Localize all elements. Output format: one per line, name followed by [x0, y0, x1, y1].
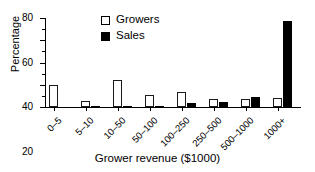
x-axis-tick [54, 107, 55, 111]
bar-growers [49, 85, 58, 107]
bar-growers [177, 92, 186, 107]
bar-sales [123, 106, 132, 107]
y-axis-line [45, 18, 46, 107]
x-axis-tick [150, 107, 151, 111]
x-axis-tick [86, 107, 87, 111]
legend-item: Growers [101, 12, 159, 28]
x-axis-title: Grower revenue ($1000) [0, 152, 315, 164]
legend-item-label: Growers [116, 14, 159, 26]
y-axis-minor-tick [42, 51, 45, 52]
y-axis-tick: 60 [40, 40, 45, 41]
bar-sales [283, 21, 292, 107]
chart-legend: GrowersSales [101, 12, 159, 44]
legend-item-label: Sales [116, 30, 145, 42]
filled-square-icon [101, 32, 110, 41]
y-axis-tick-label: 80 [22, 13, 33, 23]
y-axis-tick: 20 [40, 85, 45, 86]
x-axis-tick [278, 107, 279, 111]
x-axis-line [45, 107, 301, 108]
x-axis-tick [118, 107, 119, 111]
bar-sales [187, 103, 196, 107]
y-axis-minor-tick [42, 96, 45, 97]
bar-growers [241, 99, 250, 107]
x-axis-tick [246, 107, 247, 111]
legend-item: Sales [101, 28, 159, 44]
y-axis-tick: 0 [40, 107, 45, 108]
x-axis-tick [182, 107, 183, 111]
y-axis-minor-tick [42, 29, 45, 30]
x-axis-tick [214, 107, 215, 111]
plot-area: 020406080 [45, 18, 301, 107]
bar-growers [209, 99, 218, 107]
open-square-icon [101, 16, 110, 25]
bar-sales [155, 106, 164, 107]
bar-growers [113, 80, 122, 107]
bar-chart-figure: Percentage 020406080 0–55–1010–5050–1001… [0, 0, 315, 172]
y-axis-minor-tick [42, 74, 45, 75]
y-axis-tick-label: 60 [22, 58, 33, 68]
y-axis-tick: 40 [40, 63, 45, 64]
bar-growers [273, 98, 282, 107]
bar-growers [145, 95, 154, 107]
bar-growers [81, 101, 90, 107]
y-axis-tick-label: 40 [22, 102, 33, 112]
y-axis-title: Percentage [9, 0, 21, 89]
bar-sales [251, 97, 260, 107]
bar-sales [91, 106, 100, 107]
y-axis-tick: 80 [40, 18, 45, 19]
bar-sales [219, 102, 228, 107]
